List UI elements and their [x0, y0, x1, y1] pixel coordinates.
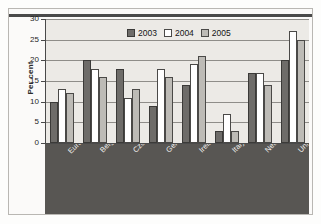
category-label-band: European Union(1)BelgiumCzech RepublicGe…: [45, 144, 309, 214]
legend-label-2005: 2005: [212, 28, 231, 38]
legend-item-2003: 2003: [127, 28, 157, 38]
chart-figure: Per cent 051015202530 2003 2004 2005 Eur…: [0, 0, 321, 224]
category-slot: United Kingdom: [276, 144, 309, 214]
bar-2005: [165, 77, 173, 143]
bar-2003: [116, 69, 124, 143]
legend-item-2004: 2004: [164, 28, 194, 38]
y-tick-label-10: 10: [9, 98, 39, 106]
y-tick-mark-15: [41, 81, 45, 82]
bar-2003: [215, 131, 223, 143]
category-slot: Ireland: [177, 144, 210, 214]
category-slot: Netherlands: [243, 144, 276, 214]
bar-2004: [91, 69, 99, 143]
category-slot: Belgium: [78, 144, 111, 214]
bar-2004: [289, 31, 297, 143]
bar-2005: [264, 85, 272, 143]
legend-swatch-2004-icon: [164, 29, 172, 37]
bar-group: [276, 19, 309, 143]
y-tick-mark-25: [41, 40, 45, 41]
y-tick-label-25: 25: [9, 36, 39, 44]
bar-2003: [149, 106, 157, 143]
bar-2005: [66, 93, 74, 143]
y-tick-mark-20: [41, 60, 45, 61]
legend-label-2003: 2003: [138, 28, 157, 38]
chart-legend: 2003 2004 2005: [127, 28, 231, 38]
bar-group: [243, 19, 276, 143]
bar-2003: [182, 85, 190, 143]
y-tick-label-20: 20: [9, 56, 39, 64]
category-label: United Kingdom: [296, 144, 309, 154]
category-slot: European Union(1): [45, 144, 78, 214]
legend-item-2005: 2005: [201, 28, 231, 38]
bar-2004: [58, 89, 66, 143]
bar-2004: [256, 73, 264, 143]
category-slot: Czech Republic: [111, 144, 144, 214]
category-slot: Italy: [210, 144, 243, 214]
bar-2004: [124, 98, 132, 143]
bar-group: [46, 19, 79, 143]
y-tick-label-0: 0: [9, 139, 39, 147]
y-tick-label-5: 5: [9, 118, 39, 126]
bar-2003: [83, 60, 91, 143]
y-tick-mark-5: [41, 122, 45, 123]
legend-swatch-2005-icon: [201, 29, 209, 37]
bar-2005: [198, 56, 206, 143]
bar-2004: [223, 114, 231, 143]
bar-2005: [132, 89, 140, 143]
category-slot: Germany: [144, 144, 177, 214]
y-tick-mark-30: [41, 19, 45, 20]
bar-2005: [99, 77, 107, 143]
y-tick-label-15: 15: [9, 77, 39, 85]
bar-2005: [297, 40, 305, 143]
plot-wrapper: Per cent 051015202530 2003 2004 2005 Eur…: [9, 17, 312, 214]
bar-2003: [281, 60, 289, 143]
bar-group: [79, 19, 112, 143]
bar-2003: [248, 73, 256, 143]
bar-2004: [190, 64, 198, 143]
bar-2004: [157, 69, 165, 143]
bar-2003: [50, 102, 58, 143]
legend-label-2004: 2004: [175, 28, 194, 38]
bar-2005: [231, 131, 239, 143]
legend-swatch-2003-icon: [127, 29, 135, 37]
y-tick-mark-10: [41, 102, 45, 103]
y-tick-label-30: 30: [9, 15, 39, 23]
